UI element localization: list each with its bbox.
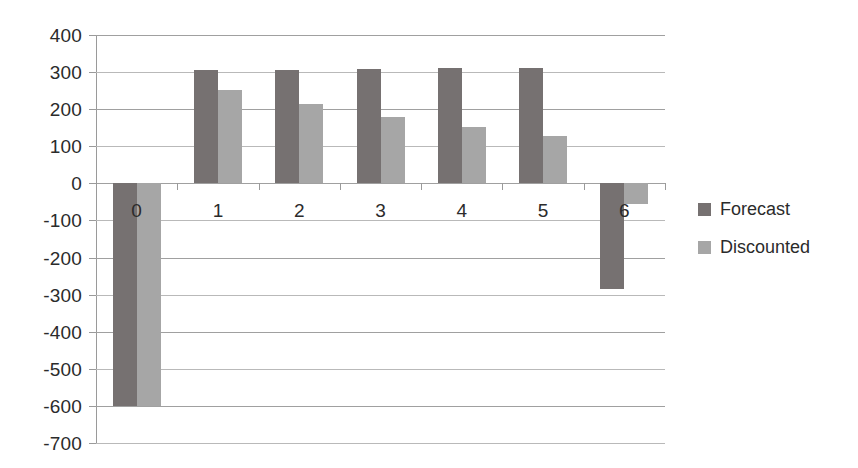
- y-tick-mark-100: [89, 146, 96, 147]
- gridline--200: [96, 258, 665, 259]
- y-tick-label: -700: [10, 434, 82, 453]
- legend-label: Forecast: [720, 199, 790, 220]
- x-tick-label: 2: [294, 201, 305, 220]
- gridline-300: [96, 72, 665, 73]
- x-tick-mark-end: [665, 183, 666, 190]
- x-tick-label: 1: [213, 201, 224, 220]
- y-tick-mark-0: [89, 183, 96, 184]
- bar-discounted-3: [381, 117, 405, 184]
- y-tick-label: -600: [10, 396, 82, 415]
- y-tick-label: -400: [10, 322, 82, 341]
- gridline--400: [96, 332, 665, 333]
- y-tick-label: -500: [10, 359, 82, 378]
- chart-legend: ForecastDiscounted: [698, 190, 848, 266]
- y-tick-mark-400: [89, 35, 96, 36]
- x-tick-label: 3: [375, 201, 386, 220]
- y-tick-mark--200: [89, 258, 96, 259]
- legend-swatch-icon: [698, 241, 711, 254]
- bar-chart: 4003002001000-100-200-300-400-500-600-70…: [0, 0, 858, 468]
- x-tick-mark-5: [502, 183, 503, 190]
- x-tick-mark-0: [96, 183, 97, 190]
- y-tick-mark-200: [89, 109, 96, 110]
- y-tick-mark--400: [89, 332, 96, 333]
- x-tick-mark-6: [584, 183, 585, 190]
- y-tick-mark--500: [89, 369, 96, 370]
- bar-forecast-4: [438, 68, 462, 183]
- x-tick-label: 5: [538, 201, 549, 220]
- y-tick-label: -300: [10, 285, 82, 304]
- y-axis-tick-labels: 4003002001000-100-200-300-400-500-600-70…: [10, 0, 82, 468]
- y-tick-label: -100: [10, 211, 82, 230]
- bar-forecast-3: [357, 69, 381, 183]
- y-tick-mark--300: [89, 295, 96, 296]
- gridline--700: [96, 443, 665, 444]
- legend-item-discounted[interactable]: Discounted: [698, 228, 848, 266]
- bar-discounted-1: [218, 90, 242, 183]
- y-tick-label: 400: [10, 26, 82, 45]
- gridline-200: [96, 109, 665, 110]
- x-tick-mark-1: [177, 183, 178, 190]
- bar-forecast-1: [194, 70, 218, 183]
- plot-area: 0123456: [96, 0, 665, 468]
- x-tick-label: 0: [131, 201, 142, 220]
- y-tick-mark--700: [89, 443, 96, 444]
- gridline-400: [96, 35, 665, 36]
- y-tick-mark-300: [89, 72, 96, 73]
- x-tick-label: 4: [456, 201, 467, 220]
- bar-discounted-2: [299, 104, 323, 183]
- legend-swatch-icon: [698, 203, 711, 216]
- x-tick-mark-4: [421, 183, 422, 190]
- y-tick-label: 200: [10, 100, 82, 119]
- y-tick-label: -200: [10, 248, 82, 267]
- bar-discounted-4: [462, 127, 486, 183]
- bar-forecast-2: [275, 70, 299, 183]
- y-tick-label: 0: [10, 174, 82, 193]
- x-tick-mark-3: [340, 183, 341, 190]
- legend-label: Discounted: [720, 237, 810, 258]
- gridline--500: [96, 369, 665, 370]
- y-tick-mark--600: [89, 406, 96, 407]
- legend-item-forecast[interactable]: Forecast: [698, 190, 848, 228]
- bar-discounted-5: [543, 136, 567, 183]
- x-tick-mark-2: [259, 183, 260, 190]
- gridline--300: [96, 295, 665, 296]
- gridline-0: [96, 183, 665, 184]
- y-tick-label: 100: [10, 137, 82, 156]
- gridline--600: [96, 406, 665, 407]
- y-axis-line: [96, 35, 97, 443]
- y-tick-mark--100: [89, 220, 96, 221]
- y-tick-label: 300: [10, 63, 82, 82]
- bar-forecast-5: [519, 68, 543, 184]
- x-tick-label: 6: [619, 201, 630, 220]
- bar-forecast-6: [600, 183, 624, 289]
